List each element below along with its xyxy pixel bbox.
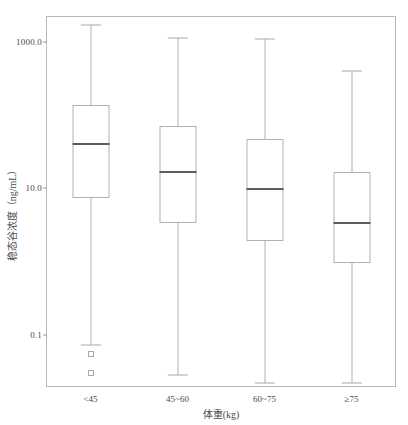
- y-axis-tick-mark: [43, 188, 47, 189]
- upper-whisker-line: [264, 39, 265, 138]
- boxplot-box-group: [333, 17, 370, 386]
- boxplot-box-group: [159, 17, 196, 386]
- y-axis-tick-mark: [43, 334, 47, 335]
- y-axis-title: 稳态谷浓度（ng/mL）: [4, 148, 19, 278]
- x-axis-tick-label: ≥75: [345, 394, 359, 404]
- upper-whisker-cap: [341, 71, 361, 72]
- lower-whisker-line: [177, 223, 178, 376]
- upper-whisker-cap: [80, 25, 100, 26]
- interquartile-box: [333, 172, 370, 264]
- plot-frame: 0.110.01000.0<4545~6060~75≥75 体重(kg): [46, 16, 396, 387]
- lower-whisker-cap: [167, 375, 187, 376]
- median-line: [246, 188, 283, 190]
- interquartile-box: [159, 126, 196, 223]
- interquartile-box: [72, 105, 109, 198]
- boxplot-box-group: [246, 17, 283, 386]
- plot-area: 0.110.01000.0<4545~6060~75≥75: [47, 17, 395, 386]
- upper-whisker-line: [351, 71, 352, 171]
- upper-whisker-cap: [167, 37, 187, 38]
- y-axis-tick-mark: [43, 42, 47, 43]
- outlier-point: [88, 370, 94, 376]
- upper-whisker-cap: [254, 39, 274, 40]
- outlier-point: [88, 351, 94, 357]
- x-axis-title: 体重(kg): [203, 406, 240, 421]
- lower-whisker-line: [90, 198, 91, 345]
- lower-whisker-line: [351, 263, 352, 383]
- lower-whisker-cap: [254, 382, 274, 383]
- lower-whisker-line: [264, 241, 265, 383]
- median-line: [333, 222, 370, 224]
- x-axis-tick-label: 45~60: [166, 394, 189, 404]
- x-axis-tick-label: <45: [83, 394, 97, 404]
- boxplot-box-group: [72, 17, 109, 386]
- boxplot-figure: 稳态谷浓度（ng/mL） 0.110.01000.0<4545~6060~75≥…: [0, 0, 408, 425]
- x-axis-tick-label: 60~75: [253, 394, 276, 404]
- lower-whisker-cap: [80, 344, 100, 345]
- median-line: [72, 143, 109, 145]
- median-line: [159, 171, 196, 173]
- upper-whisker-line: [177, 38, 178, 126]
- upper-whisker-line: [90, 25, 91, 104]
- lower-whisker-cap: [341, 382, 361, 383]
